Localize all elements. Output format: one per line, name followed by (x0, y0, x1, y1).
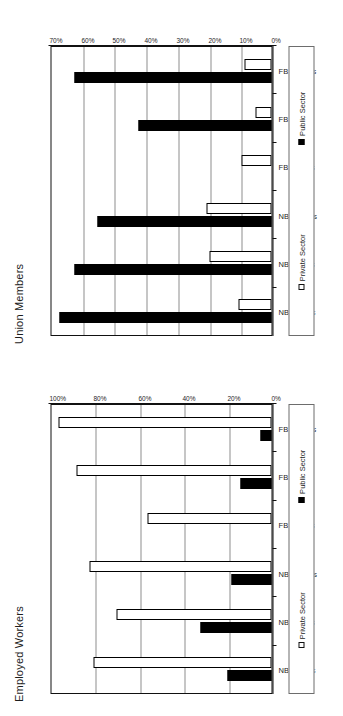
y-axis-tick-label: 100% (49, 395, 66, 402)
bar-public-sector (227, 670, 271, 681)
filled-square-icon (298, 139, 304, 145)
y-axis-tick-label: 10% (239, 37, 252, 44)
bar-group (51, 405, 271, 453)
bar-series-container (51, 47, 271, 335)
bar-private-sector (244, 59, 271, 70)
bar-public-sector (138, 120, 271, 131)
y-axis-tick-label: 30% (176, 37, 189, 44)
bar-private-sector (116, 609, 271, 620)
bar-private-sector (241, 155, 271, 166)
legend-label-public: Public Sector (297, 450, 306, 494)
y-axis-tick-label: 60% (138, 395, 151, 402)
bar-private-sector (89, 561, 271, 572)
bar-public-sector (200, 622, 271, 633)
bar-public-sector (97, 216, 271, 227)
chart-title: Union Members (12, 264, 24, 344)
y-axis-tick-label: 70% (49, 37, 62, 44)
legend: Private Sector Public Sector (288, 404, 314, 694)
bar-private-sector (58, 417, 271, 428)
open-square-icon (298, 284, 304, 290)
y-axis-tick-label: 50% (112, 37, 125, 44)
bar-private-sector (93, 657, 271, 668)
bar-private-sector (76, 465, 271, 476)
y-axis-line (50, 403, 272, 404)
bar-private-sector (209, 251, 271, 262)
bar-group (51, 597, 271, 645)
legend-label-public: Public Sector (297, 92, 306, 136)
plot-area (50, 46, 272, 336)
y-axis-tick-label: 40% (182, 395, 195, 402)
bar-public-sector (74, 72, 271, 83)
y-axis-line (50, 45, 272, 46)
bar-group (51, 191, 271, 239)
chart-union-members: Union Members 0%10%20%30%40%50%60%70% NB… (0, 0, 343, 358)
legend: Private Sector Public Sector (288, 46, 314, 336)
bar-private-sector (147, 513, 271, 524)
y-axis-tick-label: 0% (271, 395, 280, 402)
category-axis-line (272, 46, 273, 336)
legend-label-private: Private Sector (297, 234, 306, 281)
bar-group (51, 501, 271, 549)
y-axis-tick-label: 20% (208, 37, 221, 44)
legend-item-private: Private Sector (297, 592, 306, 648)
bar-private-sector (238, 299, 271, 310)
y-axis-tick-label: 40% (144, 37, 157, 44)
bar-group (51, 453, 271, 501)
legend-item-private: Private Sector (297, 234, 306, 290)
bar-group (51, 47, 271, 95)
category-axis-line (272, 404, 273, 694)
y-axis-tick-label: 60% (81, 37, 94, 44)
bar-group (51, 143, 271, 191)
chart-employed-workers: Employed Workers 0%20%40%60%80%100% NB W… (0, 358, 343, 716)
bar-public-sector (59, 312, 271, 323)
bar-series-container (51, 405, 271, 693)
figure-page: Union Members 0%10%20%30%40%50%60%70% NB… (0, 0, 343, 716)
bar-public-sector (74, 264, 271, 275)
y-axis-tick-label: 80% (93, 395, 106, 402)
y-axis-tick-label: 20% (227, 395, 240, 402)
bar-group (51, 549, 271, 597)
chart-title: Employed Workers (12, 606, 24, 702)
bar-private-sector (206, 203, 271, 214)
filled-square-icon (298, 497, 304, 503)
bar-group (51, 95, 271, 143)
chart-rotated-canvas: Employed Workers 0%20%40%60%80%100% NB W… (0, 358, 343, 716)
bar-public-sector (231, 574, 271, 585)
chart-rotated-canvas: Union Members 0%10%20%30%40%50%60%70% NB… (0, 0, 343, 358)
bar-private-sector (255, 107, 271, 118)
bar-public-sector (260, 430, 271, 441)
bar-group (51, 287, 271, 335)
legend-item-public: Public Sector (297, 92, 306, 145)
bar-public-sector (240, 478, 271, 489)
bar-group (51, 239, 271, 287)
legend-label-private: Private Sector (297, 592, 306, 639)
plot-area (50, 404, 272, 694)
bar-group (51, 645, 271, 693)
open-square-icon (298, 642, 304, 648)
y-axis-tick-label: 0% (271, 37, 280, 44)
legend-item-public: Public Sector (297, 450, 306, 503)
